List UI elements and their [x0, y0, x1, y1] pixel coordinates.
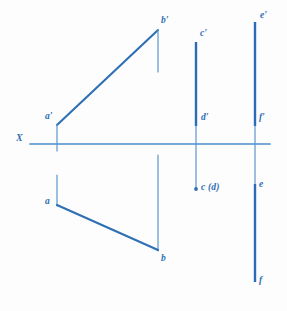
label-a: a [45, 197, 50, 207]
label-f: f [259, 276, 262, 286]
projection-diagram: X a′ b′ c′ d′ e′ f′ a b c (d) e f [0, 0, 287, 311]
label-f-prime: f′ [259, 113, 265, 123]
label-b-prime: b′ [161, 16, 169, 26]
label-x-axis: X [16, 133, 23, 143]
label-d-prime: d′ [201, 113, 209, 123]
segment-a-b [57, 205, 158, 250]
point-c-d [194, 187, 198, 191]
label-b: b [161, 254, 166, 264]
label-c-prime: c′ [200, 29, 207, 39]
segment-a-prime-b-prime [57, 30, 158, 125]
label-a-prime: a′ [45, 112, 53, 122]
label-e: e [259, 180, 263, 190]
label-e-prime: e′ [260, 11, 267, 21]
projection-drawing-canvas [0, 0, 287, 311]
label-c-d: c (d) [201, 183, 220, 193]
